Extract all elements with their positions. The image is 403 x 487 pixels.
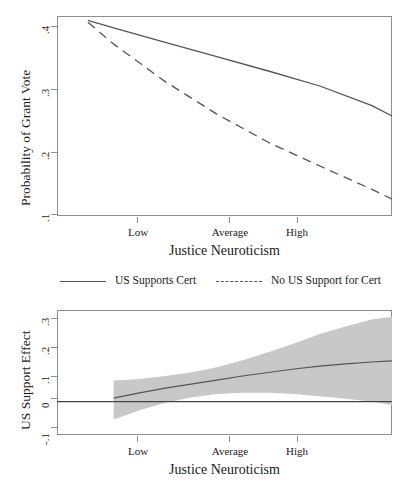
top-x-tickmark-0 <box>137 217 138 223</box>
legend-key-dashed <box>216 281 262 282</box>
bottom-y-axis-title: US Support Effect <box>18 331 34 431</box>
top-y-axis-title: Probability of Grant Vote <box>18 70 34 206</box>
bottom-x-tickmark-0 <box>137 436 138 442</box>
bottom-x-tick-label-1: Average <box>204 445 256 457</box>
bottom-x-axis-title: Justice Neuroticism <box>57 462 392 478</box>
top-y-tick-label-3: .1 <box>39 214 51 222</box>
top-x-tick-label-0: Low <box>122 226 154 238</box>
legend-label-no-us-support-for-cert: No US Support for Cert <box>271 274 381 286</box>
bottom-x-tick-label-2: High <box>280 445 314 457</box>
top-y-tick-label-2: .2 <box>39 152 51 160</box>
bottom-y-tick-label-3: 0 <box>39 403 51 409</box>
top-x-tick-label-2: High <box>280 226 314 238</box>
bottom-x-tickmark-1 <box>229 436 230 442</box>
legend-key-solid <box>60 281 106 282</box>
bottom-x-tick-label-0: Low <box>122 445 154 457</box>
top-x-tickmark-1 <box>229 217 230 223</box>
series-no-us-support-for-cert <box>88 22 392 199</box>
bottom-x-tickmark-2 <box>297 436 298 442</box>
figure-legend: US Supports Cert No US Support for Cert <box>0 268 403 294</box>
bottom-y-tick-label-2: .1 <box>39 376 51 384</box>
confidence-band <box>114 317 392 420</box>
legend-label-us-supports-cert: US Supports Cert <box>115 274 196 286</box>
bottom-y-tick-label-1: .2 <box>39 347 51 355</box>
top-x-axis-title: Justice Neuroticism <box>57 243 392 259</box>
top-y-tick-label-0: .4 <box>39 26 51 34</box>
top-x-tick-label-1: Average <box>204 226 256 238</box>
top-y-tick-label-1: .3 <box>39 89 51 97</box>
top-plot-curves <box>57 16 392 216</box>
series-us-supports-cert <box>88 20 392 116</box>
bottom-plot-curves <box>57 310 392 435</box>
top-x-tickmark-2 <box>297 217 298 223</box>
bottom-y-tick-label-0: .3 <box>39 318 51 326</box>
bottom-y-tick-label-4: -.1 <box>39 433 51 445</box>
